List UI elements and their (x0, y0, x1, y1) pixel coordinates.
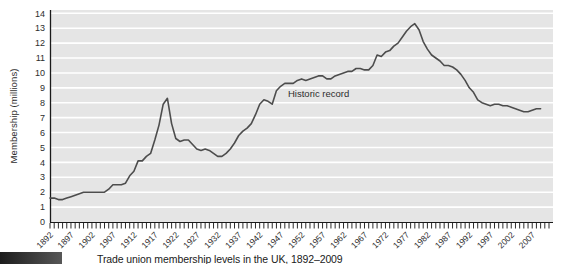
y-tick-label: 10 (35, 68, 45, 78)
historic-record-annotation: Historic record (288, 88, 349, 99)
y-tick-label: 8 (40, 98, 45, 108)
x-tick-label: 1967 (349, 230, 370, 251)
x-tick-label: 1917 (139, 230, 160, 251)
y-tick-label: 5 (40, 143, 45, 153)
membership-chart: 0123456789101112131418921897190219071912… (0, 0, 561, 252)
x-tick-label: 1907 (97, 230, 118, 251)
x-tick-label: 1987 (433, 230, 454, 251)
y-tick-label: 4 (40, 158, 45, 168)
y-tick-label: 12 (35, 38, 45, 48)
x-tick-label: 1922 (160, 230, 181, 251)
y-tick-label: 9 (40, 83, 45, 93)
x-tick-label: 1927 (181, 230, 202, 251)
y-axis-title: Membership (millions) (8, 68, 19, 163)
x-tick-label: 1962 (328, 230, 349, 251)
x-tick-label: 1997 (475, 230, 496, 251)
y-tick-label: 14 (35, 9, 45, 19)
figure-caption: Trade union membership levels in the UK,… (97, 253, 343, 264)
x-tick-label: 1892 (34, 230, 55, 251)
y-tick-label: 11 (36, 53, 45, 63)
y-tick-label: 3 (40, 172, 45, 182)
y-tick-label: 2 (40, 187, 45, 197)
y-tick-label: 13 (35, 23, 45, 33)
x-tick-label: 1977 (391, 230, 412, 251)
x-tick-label: 1937 (223, 230, 244, 251)
x-tick-label: 1902 (76, 230, 97, 251)
x-tick-label: 2007 (517, 230, 538, 251)
x-tick-label: 1942 (244, 230, 265, 251)
x-tick-label: 1952 (286, 230, 307, 251)
x-tick-label: 1982 (412, 230, 433, 251)
chart-figure: 0123456789101112131418921897190219071912… (0, 0, 561, 264)
x-tick-label: 1947 (265, 230, 286, 251)
x-tick-label: 1932 (202, 230, 223, 251)
x-tick-label: 1912 (118, 230, 139, 251)
y-tick-label: 6 (40, 128, 45, 138)
x-tick-label: 1897 (55, 230, 76, 251)
figure-number-box (0, 252, 62, 264)
plot-background (50, 10, 553, 222)
x-tick-label: 2002 (496, 230, 517, 251)
x-tick-label: 1972 (370, 230, 391, 251)
y-tick-label: 1 (40, 202, 45, 212)
x-tick-label: 1957 (307, 230, 328, 251)
y-tick-label: 0 (40, 217, 45, 227)
x-tick-label: 1992 (454, 230, 475, 251)
caption-row: Trade union membership levels in the UK,… (0, 252, 561, 264)
y-tick-label: 7 (40, 113, 45, 123)
